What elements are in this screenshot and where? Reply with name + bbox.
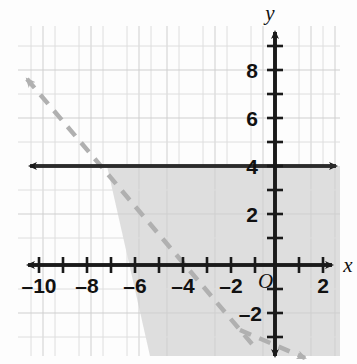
y-tick-label--2: –2 [239,302,262,325]
origin-label: O [258,269,273,293]
x-tick-label--4: –4 [171,274,195,297]
x-tick-label--10: –10 [21,274,56,297]
y-axis-label: y [263,1,275,25]
y-tick-label-6: 6 [246,107,258,130]
x-tick-label--6: –6 [123,274,146,297]
y-tick-label-2: 2 [246,203,258,226]
coordinate-plane-figure: –10 –8 –6 –4 –2 2 8 6 4 2 –2 O y x [0,0,357,364]
y-tick-label-8: 8 [246,59,258,82]
graph-canvas: –10 –8 –6 –4 –2 2 8 6 4 2 –2 O y x [0,0,357,364]
x-tick-label-2: 2 [317,274,329,297]
x-axis-label: x [342,253,353,277]
x-tick-label--8: –8 [75,274,99,297]
y-tick-label-4: 4 [246,155,258,178]
x-tick-label--2: –2 [219,274,242,297]
